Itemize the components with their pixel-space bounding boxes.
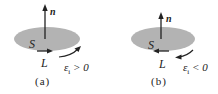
caption-a: (a) [35, 76, 50, 87]
surface-label: S [148, 39, 154, 51]
surface-disc [131, 27, 195, 51]
emf-label: εi > 0 [64, 62, 89, 76]
emf-arrowhead-icon [175, 55, 182, 60]
emf-label: εi < 0 [183, 62, 208, 76]
panel-b: n S L εi < 0 (b) [109, 0, 218, 94]
normal-label: n [50, 7, 56, 17]
normal-arrowhead-icon [42, 4, 47, 11]
emf-curved-arrow [59, 49, 78, 57]
surface-disc [14, 27, 80, 51]
surface-label: S [29, 38, 35, 50]
normal-label: n [166, 14, 172, 24]
loop-label: L [159, 58, 166, 70]
loop-label: L [41, 57, 48, 69]
caption-b: (b) [151, 76, 167, 87]
normal-arrowhead-icon [158, 12, 163, 19]
panel-a: n S L εi > 0 (a) [0, 0, 109, 94]
